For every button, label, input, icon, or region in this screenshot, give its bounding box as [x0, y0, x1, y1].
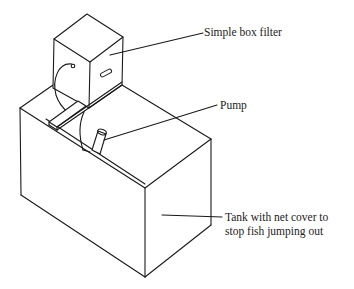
aquarium-diagram: Simple box filter Pump Tank with net cov…	[0, 0, 354, 289]
pump-shape	[80, 112, 107, 154]
filter-leader	[110, 33, 203, 55]
box-filter-shape	[53, 14, 123, 116]
pump-leader	[104, 105, 217, 140]
pump-label: Pump	[220, 99, 247, 112]
tank-shape	[20, 85, 211, 277]
filter-label: Simple box filter	[204, 26, 282, 39]
tank-label-line1: Tank with net cover to	[225, 211, 328, 224]
tank-leader	[162, 215, 222, 217]
diagram-drawing	[0, 0, 354, 289]
tank-label-line2: stop fish jumping out	[225, 225, 323, 238]
